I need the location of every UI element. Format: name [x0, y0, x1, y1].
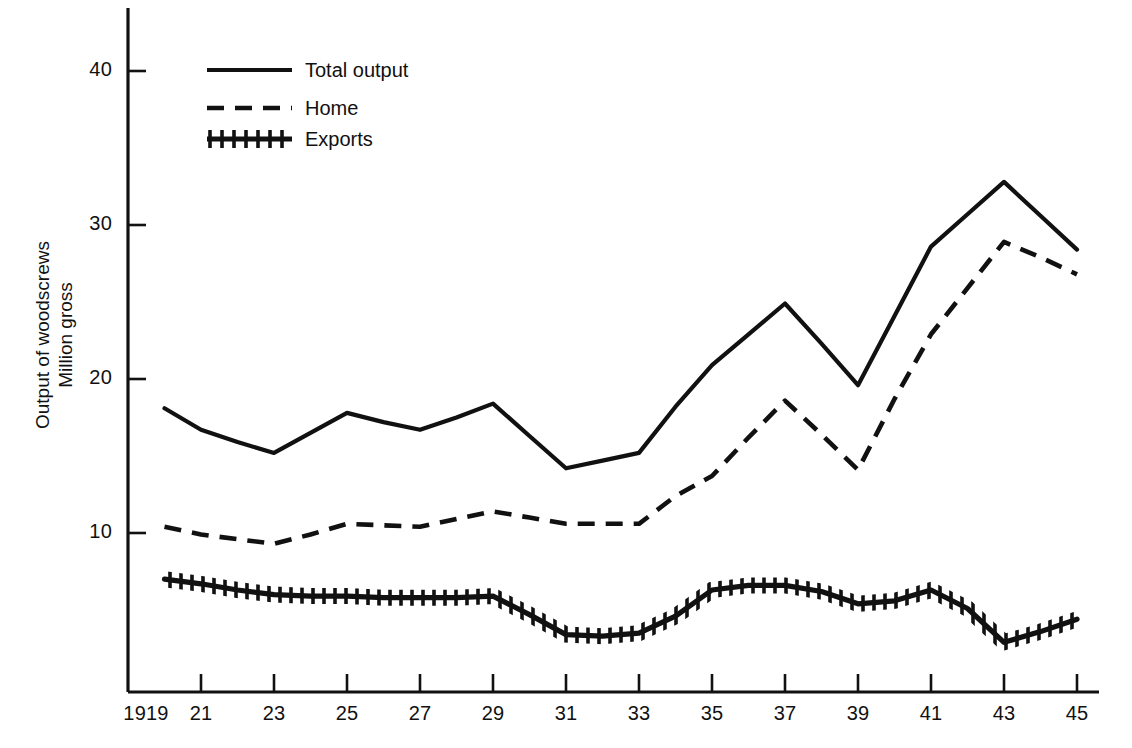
chart-plot-area: [0, 0, 1132, 748]
x-tick-label: 45: [1032, 702, 1122, 725]
legend-label-total-output: Total output: [305, 59, 408, 82]
y-axis-title-line-2: Million gross: [54, 205, 77, 465]
y-tick-label: 10: [40, 520, 112, 543]
y-tick-label: 30: [40, 212, 112, 235]
legend-label-home: Home: [305, 97, 358, 120]
y-tick-label: 40: [40, 58, 112, 81]
y-tick-label: 20: [40, 366, 112, 389]
y-axis-title: Output of woodscrews Million gross: [31, 205, 77, 465]
legend-label-exports: Exports: [305, 128, 373, 151]
woodscrews-output-chart: Output of woodscrews Million gross 40302…: [0, 0, 1132, 748]
y-axis-title-line-1: Output of woodscrews: [31, 205, 54, 465]
series-exports: [0, 0, 1132, 748]
